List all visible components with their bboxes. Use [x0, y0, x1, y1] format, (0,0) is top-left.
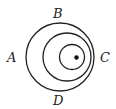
- diagram-canvas: B A C D: [0, 0, 116, 109]
- middle-circle: [43, 33, 91, 81]
- nested-circles-diagram: B A C D: [0, 0, 116, 109]
- center-point: [74, 55, 78, 59]
- label-d: D: [52, 93, 64, 108]
- label-c: C: [100, 50, 110, 65]
- label-b: B: [52, 6, 63, 21]
- label-a: A: [6, 50, 16, 65]
- inner-circle: [60, 45, 85, 70]
